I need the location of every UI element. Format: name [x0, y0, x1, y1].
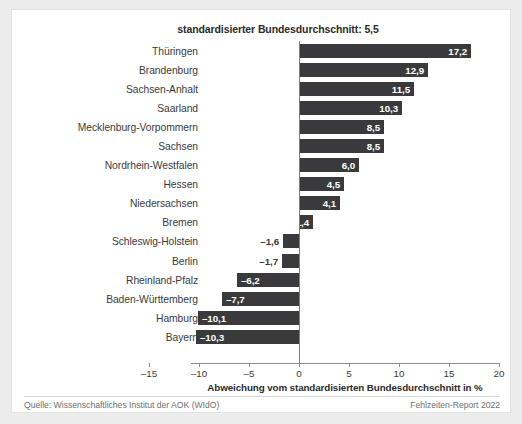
- bar-row: Niedersachsen4,1: [12, 194, 512, 213]
- x-tick: [149, 363, 150, 367]
- category-label: Berlin: [172, 255, 198, 266]
- bar-value-label: –7,7: [226, 293, 245, 304]
- category-label: Baden-Württemberg: [106, 293, 198, 304]
- zero-axis-line: [299, 41, 300, 363]
- bar-row: Baden-Württemberg–7,7: [12, 289, 512, 308]
- bar-value-label: –6,2: [241, 274, 260, 285]
- bar[interactable]: [282, 254, 299, 268]
- bar-value-label: 8,5: [367, 121, 380, 132]
- bar-value-label: 4,5: [327, 179, 340, 190]
- x-tick-label: –15: [141, 368, 157, 379]
- footer: Quelle: Wissenschaftliches Institut der …: [24, 400, 500, 410]
- bar-value-label: 6,0: [342, 160, 355, 171]
- bar[interactable]: [283, 234, 299, 248]
- x-axis-title: Abweichung vom standardisierten Bundesdu…: [191, 382, 499, 393]
- category-label: Saarland: [157, 102, 198, 113]
- bar-row: Rheinland-Pfalz–6,2: [12, 270, 512, 289]
- bar-row: Hamburg–10,1: [12, 308, 512, 327]
- footer-source: Quelle: Wissenschaftliches Institut der …: [24, 400, 219, 410]
- bar-row: Bremen1,4: [12, 213, 512, 232]
- footer-report: Fehlzeiten-Report 2022: [410, 400, 500, 410]
- bar-row: Schleswig-Holstein–1,6: [12, 232, 512, 251]
- category-label: Sachsen: [158, 141, 198, 152]
- x-axis-line: [191, 363, 499, 364]
- bar-value-label: 11,5: [392, 83, 410, 94]
- bar-value-label: –10,1: [202, 312, 226, 323]
- bar-value-label: 4,1: [323, 198, 336, 209]
- x-tick: [499, 363, 500, 367]
- bar-value-label: 12,9: [405, 64, 424, 75]
- bar-row: Mecklenburg-Vorpommern8,5: [12, 117, 512, 136]
- x-tick: [399, 363, 400, 367]
- category-label: Sachsen-Anhalt: [126, 83, 198, 94]
- x-tick-label: 15: [444, 368, 455, 379]
- category-label: Bremen: [162, 217, 198, 228]
- bar-value-label: –10,3: [200, 331, 224, 342]
- category-label: Hamburg: [156, 312, 198, 323]
- category-label: Rheinland-Pfalz: [126, 274, 198, 285]
- bar-row: Berlin–1,7: [12, 251, 512, 270]
- x-tick-label: 0: [296, 368, 301, 379]
- footer-divider: [24, 396, 500, 397]
- bar-value-label: 10,3: [379, 102, 398, 113]
- x-tick: [199, 363, 200, 367]
- category-label: Thüringen: [152, 45, 198, 56]
- x-tick-label: 5: [346, 368, 351, 379]
- bar-row: Nordrhein-Westfalen6,0: [12, 156, 512, 175]
- x-tick: [249, 363, 250, 367]
- bar[interactable]: [299, 44, 471, 58]
- chart-card: standardisierter Bundesdurchschnitt: 5,5…: [11, 9, 511, 413]
- bar-row: Sachsen-Anhalt11,5: [12, 79, 512, 98]
- bar-value-label: 1,4: [296, 217, 309, 228]
- bar-value-label: 8,5: [367, 141, 380, 152]
- bar-row: Hessen4,5: [12, 175, 512, 194]
- category-label: Mecklenburg-Vorpommern: [78, 121, 198, 132]
- category-label: Schleswig-Holstein: [112, 236, 198, 247]
- category-label: Brandenburg: [139, 64, 198, 75]
- x-tick-label: –5: [244, 368, 255, 379]
- x-tick: [449, 363, 450, 367]
- plot-area: Thüringen17,2Brandenburg12,9Sachsen-Anha…: [12, 41, 512, 363]
- x-tick: [299, 363, 300, 367]
- category-label: Niedersachsen: [130, 198, 198, 209]
- bar-row: Thüringen17,2: [12, 41, 512, 60]
- x-tick-label: –10: [191, 368, 207, 379]
- bar-row: Brandenburg12,9: [12, 60, 512, 79]
- category-label: Hessen: [163, 179, 198, 190]
- bar-row: Bayern–10,3: [12, 327, 512, 346]
- x-tick-label: 10: [394, 368, 405, 379]
- bar-value-label: 17,2: [448, 45, 467, 56]
- category-label: Nordrhein-Westfalen: [105, 160, 198, 171]
- x-tick: [349, 363, 350, 367]
- category-label: Bayern: [166, 331, 198, 342]
- chart-title: standardisierter Bundesdurchschnitt: 5,5: [12, 23, 510, 35]
- bar-value-label: –1,7: [259, 255, 278, 266]
- x-tick-label: 20: [494, 368, 505, 379]
- bar-value-label: –1,6: [260, 236, 279, 247]
- bar-row: Sachsen8,5: [12, 136, 512, 155]
- bar-row: Saarland10,3: [12, 98, 512, 117]
- bar-rows: Thüringen17,2Brandenburg12,9Sachsen-Anha…: [12, 41, 512, 347]
